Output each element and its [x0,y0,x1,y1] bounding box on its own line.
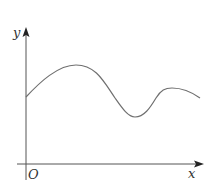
origin-label: O [28,167,39,182]
y-axis-label: y [12,25,21,40]
x-axis-label: x [188,166,196,181]
function-graph: y O x [0,0,215,186]
function-curve [26,65,200,117]
